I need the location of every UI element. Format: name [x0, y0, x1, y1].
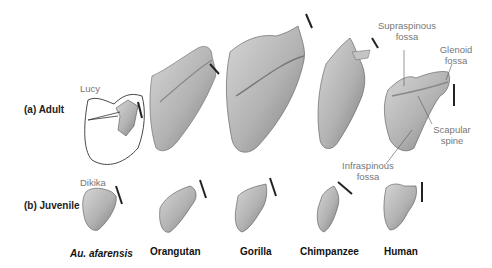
scapular-spine-label: Scapular spine	[430, 124, 474, 146]
species-label-gorilla: Gorilla	[240, 246, 272, 257]
orangutan-juvenile-scapula	[160, 180, 206, 232]
dikika-label: Dikika	[80, 177, 106, 188]
afarensis-juvenile-scapula	[83, 186, 122, 230]
chimpanzee-juvenile-scapula	[317, 182, 352, 232]
gorilla-juvenile-scapula	[235, 178, 276, 232]
orangutan-adult-scapula	[150, 46, 219, 150]
supraspinous-fossa-label: Supraspinous fossa	[378, 20, 436, 42]
human-adult-scapula	[384, 50, 454, 164]
species-label-chimpanzee: Chimpanzee	[300, 246, 359, 257]
row-label-adult: (a) Adult	[24, 104, 64, 115]
infraspinous-fossa-label: Infraspinous fossa	[340, 160, 396, 182]
species-label-afarensis: Au. afarensis	[70, 248, 133, 259]
lucy-label: Lucy	[80, 83, 100, 94]
row-label-juvenile: (b) Juvenile	[24, 200, 80, 211]
species-label-orangutan: Orangutan	[150, 246, 201, 257]
human-juvenile-scapula	[384, 182, 422, 230]
chimpanzee-adult-scapula	[318, 38, 378, 149]
glenoid-fossa-label: Glenoid fossa	[436, 44, 476, 66]
gorilla-adult-scapula	[226, 14, 312, 152]
species-label-human: Human	[384, 246, 418, 257]
lucy-scapula	[85, 94, 145, 164]
